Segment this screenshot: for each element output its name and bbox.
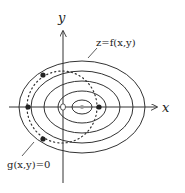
extreme-point-left [25, 104, 30, 109]
extreme-point-upper [40, 72, 45, 77]
x-axis-label: x [162, 100, 170, 115]
level-curves-label: z=f(x,y) [96, 37, 136, 48]
center-point [80, 105, 84, 109]
extreme-point-lower [40, 136, 45, 141]
constraint-label: g(x,y)=0 [7, 159, 50, 170]
origin-marker [61, 104, 66, 110]
y-axis-label: y [57, 10, 66, 25]
level-curve-leader [88, 48, 97, 58]
constraint-leader [22, 142, 34, 156]
lagrange-diagram: y x z=f(x,y) g(x,y)=0 [0, 0, 185, 193]
extreme-point-right [96, 104, 101, 109]
